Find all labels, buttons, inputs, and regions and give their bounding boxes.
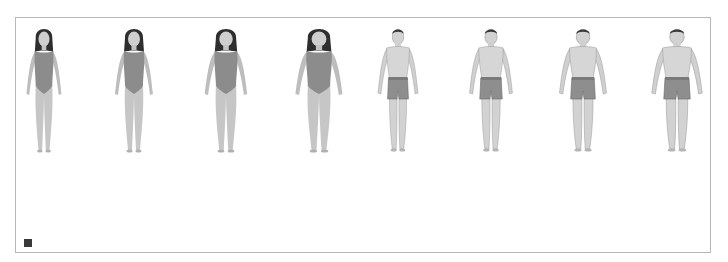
male-figure-4 <box>652 30 702 152</box>
male-figure-1 <box>378 30 418 152</box>
male-figure-2 <box>470 30 513 152</box>
figure-graphic <box>0 0 728 262</box>
female-figure-2 <box>115 29 153 153</box>
caption-square-icon <box>24 239 32 247</box>
female-figure-4 <box>295 29 342 153</box>
female-figure-3 <box>205 29 248 153</box>
female-figure-1 <box>27 29 62 153</box>
male-figure-3 <box>559 30 606 152</box>
figure-caption <box>24 237 49 251</box>
